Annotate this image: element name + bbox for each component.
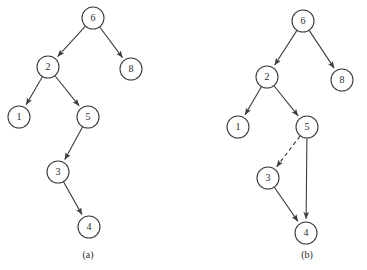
node-label: 2 — [46, 61, 51, 72]
tree-node-6: 6 — [82, 7, 104, 29]
edge-b5-to-b3 — [277, 136, 300, 167]
tree-node-5: 5 — [77, 106, 99, 128]
nodes-layer: 62815346281534 — [8, 7, 353, 244]
edge-b6-to-b8 — [309, 31, 334, 69]
tree-node-5: 5 — [296, 116, 318, 138]
node-label: 8 — [340, 74, 345, 85]
edge-a5-to-a3 — [65, 127, 83, 159]
node-label: 4 — [304, 227, 309, 238]
node-label: 6 — [91, 12, 96, 23]
edges-layer — [26, 26, 334, 221]
tree-node-4: 4 — [295, 222, 317, 244]
tree-node-3: 3 — [257, 167, 279, 189]
edge-b3-to-b4 — [275, 187, 298, 221]
node-label: 3 — [266, 172, 271, 183]
node-label: 6 — [301, 15, 306, 26]
edge-b2-to-b5 — [274, 86, 298, 116]
edge-a3-to-a4 — [64, 182, 82, 215]
panel-caption-panel-b: (b) — [301, 249, 313, 261]
tree-node-2: 2 — [256, 66, 278, 88]
node-label: 8 — [129, 63, 134, 74]
tree-node-2: 2 — [37, 56, 59, 78]
tree-node-8: 8 — [120, 58, 142, 80]
tree-node-1: 1 — [227, 116, 249, 138]
tree-node-6: 6 — [292, 10, 314, 32]
node-label: 1 — [236, 121, 241, 132]
edge-b6-to-b2 — [275, 31, 297, 65]
captions-layer: (a)(b) — [82, 249, 312, 261]
edge-a2-to-a1 — [26, 77, 42, 105]
tree-node-4: 4 — [78, 216, 100, 238]
node-label: 2 — [265, 71, 270, 82]
edge-b2-to-b1 — [245, 87, 261, 115]
tree-node-8: 8 — [331, 69, 353, 91]
binary-tree-figure: 62815346281534 (a)(b) — [0, 0, 367, 270]
tree-node-3: 3 — [47, 161, 69, 183]
node-label: 5 — [86, 111, 91, 122]
edge-a6-to-a2 — [58, 26, 86, 56]
edge-a6-to-a8 — [100, 27, 123, 57]
node-label: 1 — [17, 111, 22, 122]
edge-a2-to-a5 — [55, 76, 79, 106]
node-label: 3 — [56, 166, 61, 177]
panel-caption-panel-a: (a) — [82, 249, 93, 261]
edge-b5-to-b4 — [306, 139, 307, 219]
tree-node-1: 1 — [8, 106, 30, 128]
figure-canvas: 62815346281534 (a)(b) — [0, 0, 367, 270]
node-label: 4 — [87, 221, 92, 232]
node-label: 5 — [305, 121, 310, 132]
